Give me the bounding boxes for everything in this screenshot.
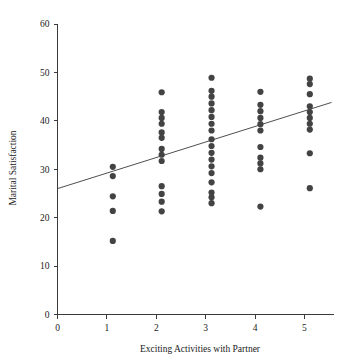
data-point xyxy=(208,114,214,120)
x-tick-label: 5 xyxy=(302,323,307,333)
data-point xyxy=(110,164,116,170)
y-tick-label: 60 xyxy=(40,19,50,29)
data-point xyxy=(208,107,214,113)
data-point xyxy=(307,150,313,156)
y-tick-label: 40 xyxy=(40,116,50,126)
data-point xyxy=(159,146,165,152)
data-point xyxy=(257,203,263,209)
y-axis-title: Marital Satisfaction xyxy=(8,130,18,205)
data-point xyxy=(159,89,165,95)
data-point xyxy=(159,152,165,158)
data-point xyxy=(208,143,214,149)
data-point xyxy=(208,94,214,100)
data-point xyxy=(208,75,214,81)
data-point xyxy=(257,115,263,121)
data-point xyxy=(257,127,263,133)
x-axis-ticks: 012345 xyxy=(55,315,307,333)
data-point xyxy=(307,109,313,115)
data-point xyxy=(208,170,214,176)
data-point xyxy=(208,179,214,185)
x-axis-title: Exciting Activities with Partner xyxy=(140,344,261,354)
data-point xyxy=(307,185,313,191)
data-point xyxy=(110,173,116,179)
plot-canvas: 0102030405060 012345 Exciting Activities… xyxy=(0,0,346,362)
x-tick-label: 1 xyxy=(105,323,110,333)
data-point xyxy=(208,136,214,142)
y-tick-label: 30 xyxy=(40,165,50,175)
data-point xyxy=(257,108,263,114)
data-point xyxy=(257,144,263,150)
data-point xyxy=(257,155,263,161)
y-axis-ticks: 0102030405060 xyxy=(40,19,58,320)
data-point xyxy=(307,103,313,109)
x-tick-label: 2 xyxy=(154,323,159,333)
data-point xyxy=(159,208,165,214)
data-point xyxy=(257,89,263,95)
data-point xyxy=(208,121,214,127)
data-point xyxy=(257,166,263,172)
data-point xyxy=(307,121,313,127)
y-tick-label: 0 xyxy=(45,310,50,320)
y-tick-label: 20 xyxy=(40,213,50,223)
data-point xyxy=(208,156,214,162)
data-point xyxy=(208,88,214,94)
regression-line xyxy=(58,102,332,188)
data-point xyxy=(257,121,263,127)
scatter-plot-figure: 0102030405060 012345 Exciting Activities… xyxy=(0,0,346,362)
data-point xyxy=(159,109,165,115)
data-point xyxy=(307,115,313,121)
data-point xyxy=(257,160,263,166)
data-point xyxy=(208,150,214,156)
data-point xyxy=(257,102,263,108)
data-point xyxy=(159,158,165,164)
data-point xyxy=(208,194,214,200)
data-point xyxy=(110,193,116,199)
data-point xyxy=(208,127,214,133)
y-tick-label: 50 xyxy=(40,68,50,78)
data-point xyxy=(159,183,165,189)
x-tick-label: 4 xyxy=(253,323,258,333)
data-point xyxy=(307,91,313,97)
data-point xyxy=(159,129,165,135)
data-point xyxy=(159,199,165,205)
data-point xyxy=(208,100,214,106)
data-point xyxy=(159,115,165,121)
data-point xyxy=(208,200,214,206)
data-point xyxy=(307,126,313,132)
data-point xyxy=(159,121,165,127)
data-point xyxy=(307,81,313,87)
data-point xyxy=(307,76,313,82)
data-point xyxy=(208,163,214,169)
data-point xyxy=(159,135,165,141)
x-tick-label: 0 xyxy=(55,323,60,333)
data-point xyxy=(159,191,165,197)
x-tick-label: 3 xyxy=(203,323,208,333)
data-point xyxy=(110,238,116,244)
data-points-group xyxy=(110,75,313,244)
data-point xyxy=(110,208,116,214)
y-tick-label: 10 xyxy=(40,261,50,271)
